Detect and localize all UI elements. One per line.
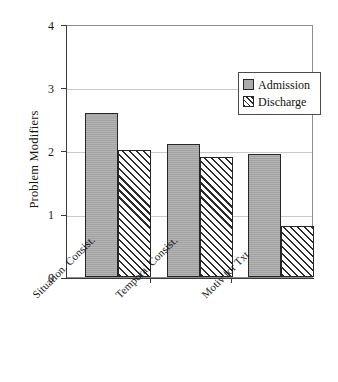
bar-discharge-temporal-consist — [200, 157, 233, 277]
bar-admission-motiv-for-txt — [248, 154, 281, 277]
legend-entry-admission: Admission — [243, 76, 316, 93]
legend-swatch-discharge-icon — [243, 96, 254, 107]
legend-label-admission: Admission — [258, 79, 310, 91]
chart-legend: Admission Discharge — [238, 72, 321, 115]
bar-admission-temporal-consist — [167, 144, 200, 277]
x-axis-line — [66, 278, 314, 279]
y-axis-line — [66, 25, 67, 279]
x-category-tick-2 — [231, 278, 232, 283]
y-axis-title: Problem Modifiers — [27, 60, 42, 260]
x-category-tick-1 — [150, 278, 151, 283]
bar-chart-figure: Problem Modifiers 4 3 2 1 0 Sit — [0, 0, 338, 382]
plot-area — [66, 25, 313, 278]
legend-swatch-admission-icon — [243, 79, 254, 90]
legend-label-discharge: Discharge — [258, 96, 306, 108]
bar-admission-situation-consist — [85, 113, 118, 277]
legend-entry-discharge: Discharge — [243, 93, 316, 110]
bar-discharge-motiv-for-txt — [281, 226, 314, 277]
